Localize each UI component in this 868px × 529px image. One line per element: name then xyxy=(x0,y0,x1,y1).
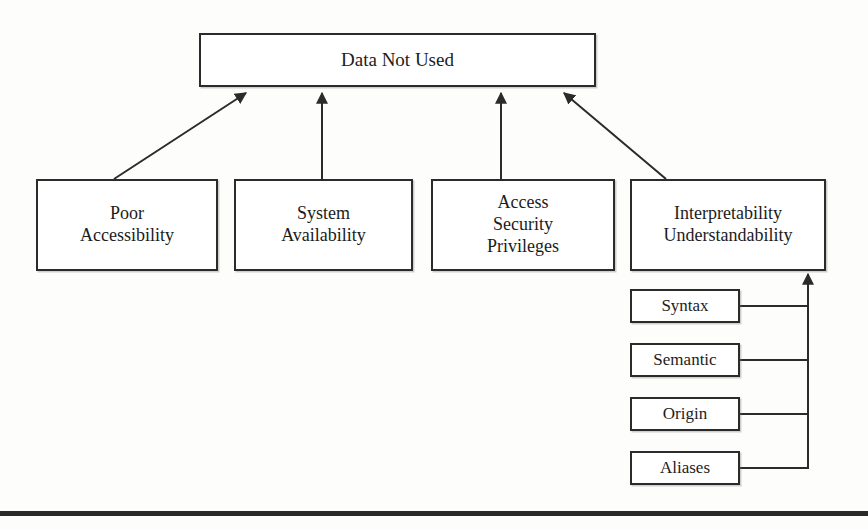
node-access-security-privileges: Access Security Privileges xyxy=(431,179,615,271)
node-semantic: Semantic xyxy=(630,343,740,377)
node-data-not-used: Data Not Used xyxy=(199,33,596,87)
node-label: Interpretability Understandability xyxy=(658,203,799,247)
node-label: System Availability xyxy=(275,203,372,247)
edge-poor-accessibility-to-root xyxy=(114,93,246,179)
node-label: Aliases xyxy=(654,458,716,479)
node-poor-accessibility: Poor Accessibility xyxy=(36,179,218,271)
node-label: Data Not Used xyxy=(335,48,460,71)
node-origin: Origin xyxy=(630,397,740,431)
diagram-canvas: Data Not Used Poor Accessibility System … xyxy=(0,0,868,529)
node-label: Syntax xyxy=(655,296,714,317)
node-label: Semantic xyxy=(647,350,722,371)
node-label: Access Security Privileges xyxy=(481,192,565,258)
edge-interpretability-to-root xyxy=(564,93,666,179)
node-aliases: Aliases xyxy=(630,451,740,485)
node-syntax: Syntax xyxy=(630,289,740,323)
figure-bottom-rule xyxy=(0,511,868,516)
node-label: Poor Accessibility xyxy=(74,203,180,247)
node-label: Origin xyxy=(657,404,713,425)
node-system-availability: System Availability xyxy=(234,179,413,271)
node-interpretability-understandability: Interpretability Understandability xyxy=(630,179,826,271)
